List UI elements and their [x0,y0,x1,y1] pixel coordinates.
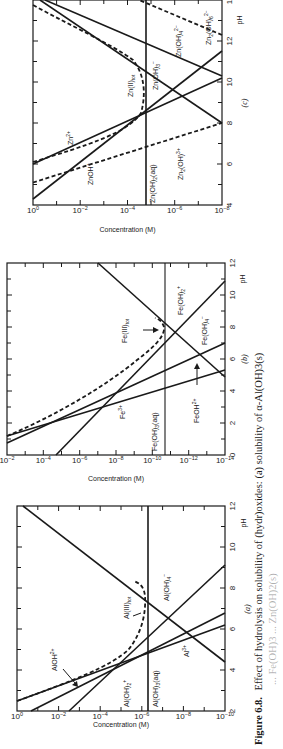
label-znoh4: Zn(OH)42− [173,25,184,57]
svg-text:10−8: 10−8 [108,455,123,465]
line-znoh4 [45,0,222,76]
svg-text:10−6: 10−6 [167,205,182,215]
svg-text:4: 4 [228,667,237,672]
svg-text:10: 10 [228,542,237,551]
y-tick-labels: 100 10−2 10−4 10−6 10−8 [27,205,230,215]
label-fetot: Fe(III)tot [121,318,130,343]
svg-text:8: 8 [228,324,237,329]
svg-text:100: 100 [27,205,39,215]
svg-text:10: 10 [225,77,234,86]
y-axis-label: Concentration (M) [93,721,149,729]
label-znoh: ZnOH+ [85,163,94,185]
svg-text:Figure 6.8. Effect of hy: Figure 6.8. Effect of hydrolysis on solu… [253,352,265,745]
svg-text:8: 8 [225,120,234,125]
panel-c: Zn2+ ZnOH+ Zn(II)tot Zn(OH)2(aq) Zn(OH)3… [27,0,249,234]
svg-text:10: 10 [228,290,237,299]
y-axis-label: Concentration (M) [88,475,144,483]
svg-text:10−2: 10−2 [0,455,15,465]
label-zntot: Zn(II)tot [127,74,136,97]
line-znoh3 [40,0,222,123]
label-znoh3: Zn(OH)3− [150,61,161,90]
x-tick-labels: 4 6 8 10 12 1 [225,0,234,207]
svg-text:10−12: 10−12 [180,455,198,465]
svg-text:10−8: 10−8 [214,205,229,215]
svg-text:10−8: 10−8 [176,711,191,721]
svg-text:6: 6 [228,356,237,361]
label-feoh2: FeOH2+ [191,399,200,423]
svg-text:12: 12 [225,36,234,45]
panel-label: (b) [240,354,249,364]
svg-text:100: 100 [11,711,23,721]
svg-text:4: 4 [228,388,237,393]
label-altot: Al(III)tot [123,596,132,619]
arrowhead-aloh2 [72,681,78,687]
svg-text:10−6: 10−6 [72,455,87,465]
svg-text:1: 1 [225,0,234,4]
caption-text: Effect of hydrolysis on solubility of (h… [253,352,265,690]
label-feoh2p: Fe(OH)2+ [175,286,186,315]
line-fetot [7,318,164,436]
label-zn2oh6: Zn2(OH)62− [203,10,214,45]
label-aloh3aq: Al(OH)3(aq) [152,670,161,707]
svg-text:6: 6 [228,626,237,631]
label-znoh2aq: Zn(OH)2(aq) [149,164,158,203]
line-aloh4 [23,506,225,662]
svg-text:10−4: 10−4 [36,455,51,465]
x-tick-labels: 0 2 4 6 8 10 12 [228,258,237,457]
x-tick-labels: 2 4 6 8 10 12 [228,501,237,713]
x-axis-label: pH [240,519,248,528]
label-aloh2: AlOH2+ [49,648,58,671]
label-aloh4: Al(OH)4− [161,574,172,601]
svg-text:8: 8 [228,585,237,590]
panel-label: (c) [240,98,249,107]
svg-text:10−4: 10−4 [120,205,135,215]
svg-text:12: 12 [228,258,237,267]
svg-text:10−10: 10−10 [216,711,234,721]
svg-text:10−6: 10−6 [134,711,149,721]
label-zn2oh3: Zn2(OH)3+ [175,148,186,180]
label-feoh3aq: Fe(OH)3(aq) [151,412,160,451]
label-zn2: Zn2+ [65,131,74,145]
arrow-altot [133,613,141,616]
label-fe3: Fe3+ [117,405,126,419]
label-al3: Al3+ [181,645,190,657]
y-axis-label: Concentration (M) [99,226,155,234]
svg-text:10−10: 10−10 [143,455,161,465]
svg-text:2: 2 [228,420,237,425]
x-axis-label: pH [236,16,244,25]
svg-text:10−14: 10−14 [216,455,234,465]
panel-label: (a) [243,604,252,614]
x-axis-label: pH [239,275,247,284]
figure-caption: Figure 6.8. Effect of hydrolysis on solu… [253,352,279,745]
caption-label: Figure 6.8. [253,697,264,745]
arrowhead-fetot [153,327,159,333]
arrowhead-feoh2 [194,363,200,369]
panel-b: Fe3+ Fe(OH)3(aq) FeOH2+ Fe(III)tot Fe(OH… [0,258,249,483]
panel-a: AlOH2+ Al(OH)2+ Al(III)tot Al(OH)3(aq) A… [11,501,252,729]
label-aloh2p: Al(OH)2+ [121,680,132,707]
y-tick-labels: 10−2 10−4 10−6 10−8 10−10 10−12 10−14 [0,455,234,465]
label-feoh4: Fe(OH)4− [199,316,210,345]
figure-6-8: Zn2+ ZnOH+ Zn(II)tot Zn(OH)2(aq) Zn(OH)3… [0,0,283,749]
svg-text:10−4: 10−4 [93,711,108,721]
line-feoh2p [56,281,225,455]
line-znoh [33,51,222,199]
svg-text:10−2: 10−2 [73,205,88,215]
line-aloh2p [69,565,225,711]
x-ticks [33,21,222,185]
svg-text:6: 6 [225,161,234,166]
y-tick-labels: 100 10−2 10−4 10−6 10−8 10−10 [11,711,234,721]
svg-text:12: 12 [228,501,237,510]
caption-line2: ... Fe(OH)3 ... Zn(OH)2(s) [267,573,279,685]
svg-text:10−2: 10−2 [51,711,66,721]
